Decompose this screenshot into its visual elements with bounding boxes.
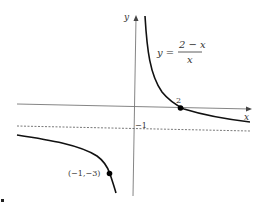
equation-lhs: y = <box>156 47 174 58</box>
y-axis-arrow-icon <box>134 15 139 21</box>
curve-right-branch <box>145 16 250 122</box>
y-axis-label: y <box>123 12 130 22</box>
equation-numerator: 2 − x <box>178 39 206 50</box>
equation-denominator: x <box>187 54 193 65</box>
x-axis-arrow-icon <box>246 107 252 112</box>
equation: y = 2 − x x <box>156 39 206 65</box>
x-axis-label: x <box>244 112 249 122</box>
point-label: (−1,−3) <box>68 169 100 178</box>
stray-mark <box>1 199 4 202</box>
y-axis <box>133 15 139 196</box>
horizontal-asymptote <box>17 126 250 131</box>
function-graph: y x 2 −1 (−1,−3) y = 2 − x x <box>0 0 259 207</box>
point-minus1-minus3 <box>107 171 113 177</box>
asymptote-label: −1 <box>135 121 147 130</box>
curve-left-branch <box>17 135 116 193</box>
x-intercept-label: 2 <box>176 96 181 105</box>
point-x-intercept <box>178 105 184 111</box>
